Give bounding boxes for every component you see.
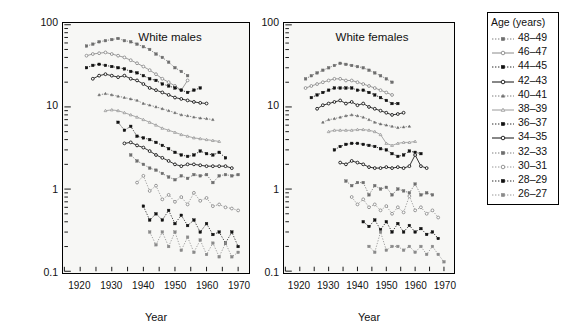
legend-item-label: 34–35 (518, 130, 547, 142)
legend-item-40-41[interactable]: 40–41 (488, 87, 558, 101)
legend-key-icon (490, 74, 516, 86)
legend-item-42-43[interactable]: 42–43 (488, 73, 558, 87)
legend-key-icon (490, 145, 516, 157)
y-tick-label: 10 (22, 99, 58, 111)
legend-key-icon (490, 59, 516, 71)
legend-item-48-49[interactable]: 48–49 (488, 30, 558, 44)
x-axis-title-right: Year (329, 311, 409, 323)
legend-key-icon (490, 88, 516, 100)
legend-key-icon (490, 102, 516, 114)
legend-rows: 48–4946–4744–4542–4340–4138–3936–3734–35… (488, 30, 558, 200)
legend-item-label: 32–33 (518, 145, 547, 157)
legend-item-label: 42–43 (518, 74, 547, 86)
legend-item-label: 26–27 (518, 187, 547, 199)
y-tick-label: 10 (243, 99, 279, 111)
legend-key-icon (490, 159, 516, 171)
legend-item-label: 38–39 (518, 102, 547, 114)
legend-item-26-27[interactable]: 26–27 (488, 186, 558, 200)
legend-item-label: 30–31 (518, 159, 547, 171)
x-axis-title-left: Year (116, 311, 196, 323)
panel-white-females: White females (283, 22, 455, 274)
y-tick-label: 1 (243, 183, 279, 195)
legend-item-label: 44–45 (518, 59, 547, 71)
x-tick-label: 1970 (219, 280, 259, 291)
legend-item-28-29[interactable]: 28–29 (488, 172, 558, 186)
legend-title: Age (years) (488, 13, 558, 30)
legend-item-label: 40–41 (518, 88, 547, 100)
legend-item-label: 46–47 (518, 45, 547, 57)
y-tick-label: 100 (22, 16, 58, 28)
legend-item-32-33[interactable]: 32–33 (488, 144, 558, 158)
legend-key-icon (490, 173, 516, 185)
x-tick-label: 1970 (425, 280, 465, 291)
legend-item-38-39[interactable]: 38–39 (488, 101, 558, 115)
y-tick-label: 100 (243, 16, 279, 28)
plot-area-white-females (284, 23, 454, 273)
legend-item-44-45[interactable]: 44–45 (488, 58, 558, 72)
legend-item-46-47[interactable]: 46–47 (488, 44, 558, 58)
legend-key-icon (490, 45, 516, 57)
legend: Age (years) 48–4946–4744–4542–4340–4138–… (487, 12, 559, 205)
legend-key-icon (490, 187, 516, 199)
legend-item-30-31[interactable]: 30–31 (488, 158, 558, 172)
legend-item-label: 28–29 (518, 173, 547, 185)
legend-key-icon (490, 31, 516, 43)
legend-item-36-37[interactable]: 36–37 (488, 115, 558, 129)
legend-item-label: 36–37 (518, 116, 547, 128)
panel-white-males: White males (62, 22, 250, 274)
figure-root: Age specific lung cancer mortality rates… (0, 0, 561, 335)
y-tick-label: 1 (22, 183, 58, 195)
legend-item-34-35[interactable]: 34–35 (488, 129, 558, 143)
y-tick-label: 0.1 (22, 266, 58, 278)
y-tick-label: 0.1 (243, 266, 279, 278)
legend-item-label: 48–49 (518, 31, 547, 43)
legend-key-icon (490, 130, 516, 142)
plot-area-white-males (63, 23, 249, 273)
legend-key-icon (490, 116, 516, 128)
